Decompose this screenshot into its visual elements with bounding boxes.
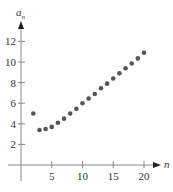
x-tick-label: 10 [77,170,89,182]
y-tick-label: 12 [5,35,16,47]
data-point [129,61,134,66]
data-point [136,56,141,61]
y-tick-label: 4 [11,118,17,130]
x-axis-label: n [164,158,170,170]
data-point [105,81,110,86]
y-tick-label: 10 [5,56,17,68]
y-axis-label: an [16,6,26,21]
data-point [117,71,122,76]
data-point [62,116,67,121]
y-tick-label: 8 [11,77,17,89]
x-tick-label: 5 [49,170,55,182]
data-point [68,111,73,116]
x-tick-label: 15 [108,170,120,182]
data-point [49,125,54,130]
axes: n an [8,6,170,181]
data-point [56,120,61,125]
data-point [74,107,79,112]
data-point [31,111,36,116]
x-ticks: 5101520 [49,161,150,182]
y-axis-arrow-icon [18,21,24,29]
x-tick-label: 20 [139,170,151,182]
data-point [43,127,48,132]
data-point [99,86,104,91]
scatter-chart: n an 5101520 24681012 [0,0,173,192]
data-point [86,96,91,101]
y-ticks: 24681012 [5,35,25,150]
data-point [123,66,128,71]
x-axis-arrow-icon [153,162,161,168]
y-tick-label: 2 [11,138,17,150]
data-point [93,92,98,97]
data-point [111,76,116,81]
data-point [37,128,42,133]
data-point [142,50,147,55]
data-point [80,101,85,106]
data-points [31,50,146,132]
y-tick-label: 6 [11,97,17,109]
